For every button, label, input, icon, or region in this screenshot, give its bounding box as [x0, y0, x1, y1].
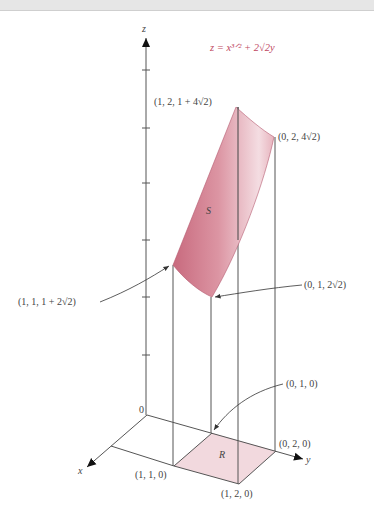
point-label-120: (1, 2, 0): [221, 489, 253, 499]
arrow-p-left-low: [100, 266, 169, 302]
point-label-left-low: (1, 1, 1 + 2√2): [18, 297, 76, 307]
point-label-020: (0, 2, 0): [279, 439, 311, 449]
x-axis: [87, 415, 147, 467]
arrow-p-010: [214, 384, 283, 430]
region-label: R: [219, 450, 225, 460]
point-label-mid-low: (0, 1, 2√2): [304, 280, 346, 290]
x-axis-label: x: [78, 466, 82, 476]
figure-canvas: z x y 0 z = x³ᐟ² + 2√2y S R (1, 2, 1 + 4…: [0, 0, 374, 524]
point-label-top-back: (1, 2, 1 + 4√2): [154, 97, 212, 107]
z-axis-label: z: [142, 24, 146, 34]
surface-label: S: [206, 206, 211, 216]
point-label-110: (1, 1, 0): [135, 470, 167, 480]
diagram-graphics: [0, 0, 374, 524]
point-label-010: (0, 1, 0): [286, 379, 318, 389]
point-label-top-right: (0, 2, 4√2): [278, 132, 320, 142]
y-axis-label: y: [306, 455, 310, 465]
arrow-p-mid-low: [215, 285, 302, 297]
surface-equation: z = x³ᐟ² + 2√2y: [210, 43, 275, 54]
origin-label: 0: [139, 405, 144, 415]
surface-s: [173, 107, 274, 297]
